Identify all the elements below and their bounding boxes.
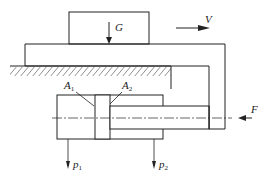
pressure2-arrowhead [152,161,156,169]
diagram-canvas: G V A1 A2 F p1 p2 [0,0,263,183]
piston-rod [110,106,209,129]
ground-hatch [10,67,171,76]
pressure1-label: p1 [72,158,83,172]
velocity-arrowhead [198,25,210,31]
area1-leader [76,92,94,106]
piston [95,95,110,139]
force-arrowhead [238,115,246,121]
load-label: G [115,21,123,33]
velocity-label: V [205,13,213,25]
pressure2-label: p2 [158,158,169,172]
area1-label: A1 [63,79,75,93]
pressure1-arrowhead [66,161,70,169]
area2-leader [110,92,122,104]
force-label: F [250,103,258,115]
area2-label: A2 [121,79,133,93]
gravity-arrowhead [106,37,112,44]
hydraulic-diagram: G V A1 A2 F p1 p2 [0,0,263,183]
